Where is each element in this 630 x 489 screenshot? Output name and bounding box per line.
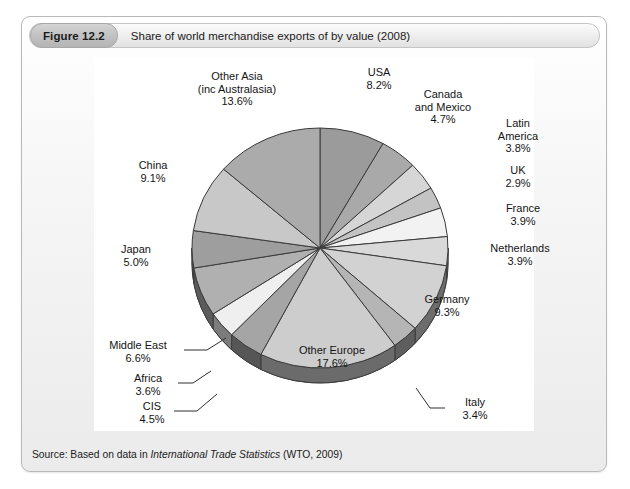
figure-source-note: Source: Based on data in International T… bbox=[32, 449, 342, 460]
source-prefix: Source: Based on data in bbox=[32, 449, 151, 460]
figure-frame: Figure 12.2 Share of world merchandise e… bbox=[21, 16, 607, 472]
source-publication-title: International Trade Statistics bbox=[151, 449, 281, 460]
chart-plot-area bbox=[94, 57, 534, 431]
figure-number-badge: Figure 12.2 bbox=[30, 23, 118, 48]
source-suffix: (WTO, 2009) bbox=[280, 449, 342, 460]
figure-title: Share of world merchandise exports of by… bbox=[131, 30, 410, 42]
figure-header: Figure 12.2 Share of world merchandise e… bbox=[29, 23, 600, 48]
